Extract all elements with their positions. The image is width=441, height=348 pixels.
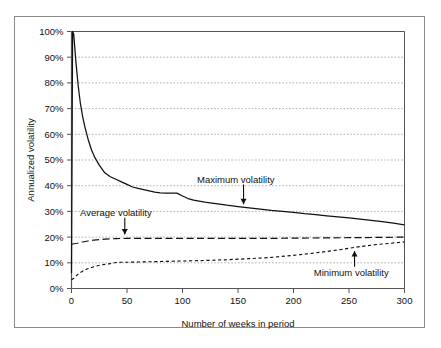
- x-tick-label: 0: [69, 295, 74, 306]
- y-tick-label: 70%: [44, 103, 64, 114]
- y-tick-label: 80%: [44, 77, 64, 88]
- y-axis-title: Annualized volatility: [25, 118, 36, 202]
- x-tick-label: 100: [175, 295, 191, 306]
- x-tick-label: 50: [122, 295, 133, 306]
- figure-container: 050100150200250300 0%10%20%30%40%50%60%7…: [0, 0, 441, 348]
- annotation-arrow-head: [352, 251, 358, 257]
- volatility-chart: 050100150200250300 0%10%20%30%40%50%60%7…: [0, 0, 441, 348]
- y-tick-label: 0%: [50, 283, 64, 294]
- y-tick-label: 10%: [44, 257, 64, 268]
- x-axis-title: Number of weeks in period: [182, 318, 295, 329]
- annotation-label-average-volatility: Average volatility: [80, 207, 152, 218]
- y-tick-label: 30%: [44, 206, 64, 217]
- x-tick-labels: 050100150200250300: [69, 295, 413, 306]
- series-line-average-volatility: [72, 237, 405, 244]
- annotation-arrow-head: [241, 199, 247, 205]
- x-tick-marks: [72, 289, 405, 294]
- annotation-label-minimum-volatility: Minimum volatility: [314, 267, 389, 278]
- y-tick-labels: 0%10%20%30%40%50%60%70%80%90%100%: [39, 26, 64, 294]
- x-tick-label: 200: [286, 295, 302, 306]
- y-tick-label: 40%: [44, 180, 64, 191]
- y-tick-label: 90%: [44, 52, 64, 63]
- x-tick-label: 250: [341, 295, 357, 306]
- y-tick-label: 20%: [44, 232, 64, 243]
- y-tick-label: 50%: [44, 154, 64, 165]
- gridlines-group: [72, 32, 405, 263]
- x-tick-label: 150: [230, 295, 246, 306]
- annotation-arrow-head: [122, 229, 128, 235]
- y-tick-marks: [67, 32, 72, 289]
- y-tick-label: 60%: [44, 129, 64, 140]
- data-series-group: [72, 32, 405, 280]
- annotation-label-maximum-volatility: Maximum volatility: [197, 174, 275, 185]
- y-tick-label: 100%: [39, 26, 64, 37]
- x-tick-label: 300: [397, 295, 413, 306]
